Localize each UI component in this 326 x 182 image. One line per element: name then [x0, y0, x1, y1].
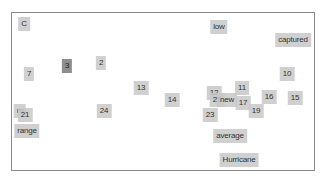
point-label: 19: [249, 104, 264, 118]
point-label: 15: [288, 91, 303, 105]
point-label: 14: [165, 93, 180, 107]
point-label: Hurricane: [220, 153, 259, 167]
point-label: 2: [96, 56, 106, 70]
point-label: low: [210, 20, 227, 34]
point-label: 24: [97, 104, 112, 118]
point-label: 21: [18, 108, 33, 122]
point-label: 10: [280, 67, 295, 81]
point-label: 3: [62, 59, 72, 73]
point-label: captured: [275, 33, 311, 47]
point-label: new: [217, 93, 237, 107]
point-label: average: [213, 129, 247, 143]
point-label: C: [18, 17, 30, 31]
point-label: 16: [262, 90, 277, 104]
point-label: 13: [134, 81, 149, 95]
point-label: 11: [235, 81, 249, 95]
point-label: range: [14, 124, 39, 138]
point-label: 23: [203, 108, 218, 122]
point-label: 7: [24, 67, 34, 81]
